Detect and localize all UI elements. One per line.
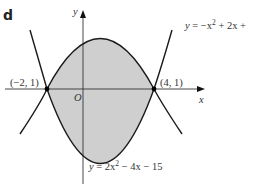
point-label-right: (4, 1) [160, 77, 183, 89]
origin-label: O [74, 92, 82, 103]
upper-parabola-right-extension [154, 89, 182, 134]
eq-tail: + 2x + [216, 20, 246, 31]
eq-mid: = 2x [94, 161, 116, 172]
part-label: d [3, 7, 13, 23]
point-label-left: (−2, 1) [10, 77, 39, 89]
intersection-point-right [152, 87, 157, 92]
shaded-region [47, 39, 154, 164]
intersection-point-left [45, 87, 50, 92]
eq-tail: − 4x − 15 [119, 161, 162, 172]
y-axis-label: y [72, 6, 78, 17]
upper-curve-equation: y = −x2 + 2x + [184, 18, 246, 31]
y-axis-arrow-icon [80, 10, 86, 18]
graph-figure: d (−2, 1) (4, 1) y x O y = −x2 + 2x + y … [0, 0, 264, 184]
x-axis-arrow-icon [197, 86, 205, 92]
upper-parabola-left-extension [20, 89, 47, 134]
lower-curve-equation: y = 2x2 − 4x − 15 [88, 159, 162, 172]
eq-mid: = −x [190, 20, 213, 31]
x-axis-label: x [198, 94, 204, 105]
